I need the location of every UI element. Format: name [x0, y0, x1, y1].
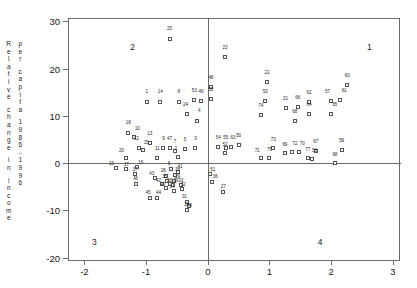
data-point: [168, 146, 172, 150]
y-axis-title-char: e: [7, 144, 11, 152]
data-point: [310, 157, 314, 161]
data-point-label: 51: [210, 167, 215, 172]
data-point-label: 47: [167, 136, 172, 141]
data-point: [124, 167, 128, 171]
data-point-label: 68: [332, 152, 337, 157]
data-point: [221, 190, 225, 194]
data-point-label: 36: [213, 174, 218, 179]
y-axis-title-char: o: [7, 199, 11, 207]
data-point-label: 74: [258, 103, 263, 108]
data-point: [199, 99, 203, 103]
data-point: [145, 100, 149, 104]
y-axis-title-char: 6: [18, 179, 22, 187]
y-axis-title-char: 1: [18, 156, 22, 164]
data-point-label: 6: [168, 161, 170, 166]
data-point: [193, 146, 197, 150]
data-point-label: 32: [181, 182, 186, 187]
quadrant-label: 2: [130, 42, 135, 52]
data-point-label: 14: [158, 89, 163, 94]
data-point: [176, 155, 180, 159]
data-point-label: 43: [149, 171, 154, 176]
data-point-label: 19: [109, 161, 114, 166]
y-axis-title-char: n: [7, 164, 11, 172]
data-point-label: 7: [174, 139, 176, 144]
y-axis-title-col1: Relative change in income: [6, 40, 11, 250]
y-axis-title-char: t: [8, 70, 10, 78]
y-axis-title-char: 9: [18, 164, 22, 172]
plot-area: -20-100102030-2-101231234252348582260501…: [68, 18, 400, 261]
data-point-label: 31: [182, 194, 187, 199]
data-point-label: 59: [339, 138, 344, 143]
y-axis-tick: 30: [63, 21, 69, 22]
data-point: [223, 55, 227, 59]
x-axis-tick: [393, 260, 394, 265]
data-point-label: 44: [156, 190, 161, 195]
data-point-label: 52: [223, 142, 228, 147]
data-point: [293, 119, 297, 123]
data-point-label: 13: [147, 131, 152, 136]
data-point-label: 66: [295, 95, 300, 100]
y-axis-tick-label: -10: [46, 204, 60, 217]
data-point: [148, 196, 152, 200]
data-point-label: 67: [313, 139, 318, 144]
data-point: [333, 161, 337, 165]
data-point-label: 27: [221, 184, 226, 189]
data-point-label: 48: [208, 75, 213, 80]
data-point-label: 50: [263, 89, 268, 94]
y-axis-title-char: g: [7, 136, 11, 144]
y-axis-title-char: h: [7, 113, 11, 121]
y-axis-title-col2: per capita 1986-1996: [18, 40, 22, 250]
y-axis-title-char: c: [7, 192, 10, 200]
y-axis-title-char: i: [8, 78, 9, 86]
data-point: [169, 167, 173, 171]
y-axis-title-char: 1: [18, 118, 22, 126]
y-axis-title-char: e: [7, 214, 11, 222]
data-point-label: 1: [145, 89, 147, 94]
y-axis-tick-label: 20: [49, 63, 60, 76]
data-point-label: 37: [133, 167, 138, 172]
y-axis-title-char: a: [7, 63, 11, 71]
data-point: [185, 208, 189, 212]
data-point-label: 72: [292, 141, 297, 146]
y-axis-tick-label: 10: [49, 110, 60, 123]
y-axis-title-char: r: [19, 55, 21, 63]
data-point: [307, 112, 311, 116]
data-point: [124, 156, 128, 160]
x-axis-tick: [331, 260, 332, 265]
x-axis-tick-label: 1: [267, 266, 272, 278]
data-point-label: 26: [161, 168, 166, 173]
y-axis-title-char: t: [19, 98, 21, 106]
y-axis-title-char: R: [6, 40, 11, 48]
y-axis-title-char: a: [7, 121, 11, 129]
data-point-label: 73: [271, 137, 276, 142]
data-point: [223, 151, 227, 155]
zero-line-vertical: [208, 19, 209, 262]
data-point: [177, 100, 181, 104]
y-axis-title-char: 8: [18, 134, 22, 142]
data-point-label: 46: [199, 89, 204, 94]
data-point: [290, 150, 294, 154]
x-axis-tick-label: 0: [205, 266, 210, 278]
data-point: [134, 182, 138, 186]
y-axis-title-char: i: [8, 156, 9, 164]
data-point-label: 60: [345, 73, 350, 78]
y-axis-tick: -20: [63, 258, 69, 259]
x-axis-tick-label: 3: [390, 266, 395, 278]
data-point: [180, 187, 184, 191]
y-axis-title-char: a: [18, 106, 22, 114]
y-axis-title-char: n: [7, 184, 11, 192]
data-point-label: 34: [170, 184, 175, 189]
data-point: [185, 112, 189, 116]
data-point-label: 65: [332, 102, 337, 107]
data-point-label: 5: [184, 137, 186, 142]
data-point: [161, 146, 165, 150]
data-point: [126, 131, 130, 135]
data-point: [237, 143, 241, 147]
y-axis-title-char: c: [7, 106, 10, 114]
data-point-label: 75: [267, 147, 272, 152]
data-point-label: 8: [178, 89, 180, 94]
data-point-label: 38: [175, 167, 180, 172]
data-point: [172, 189, 176, 193]
y-axis-title-char: e: [7, 48, 11, 56]
data-point-label: 70: [300, 141, 305, 146]
